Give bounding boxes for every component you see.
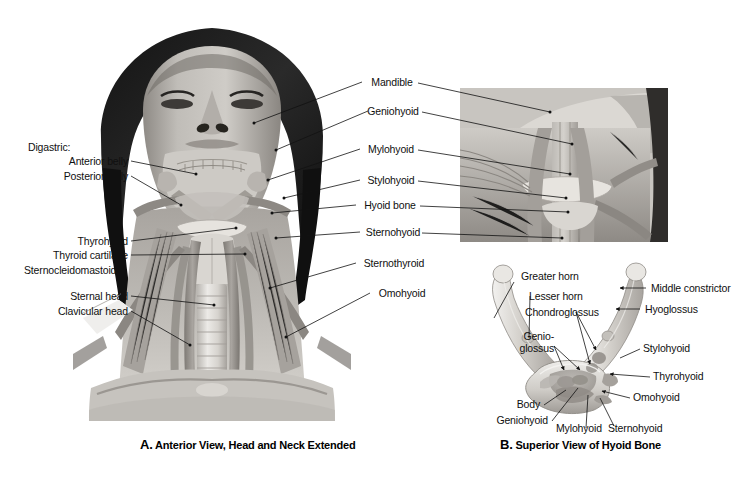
label-sternothyroid: Sternothyroid [358, 257, 430, 269]
label-mylohyoid: Mylohyoid [361, 143, 421, 155]
label-sternal-head: Sternal head [0, 290, 128, 302]
label-mandible: Mandible [363, 76, 421, 88]
label-b-omohyoid: Omohyoid [633, 391, 680, 403]
label-hyoid-bone: Hyoid bone [358, 199, 422, 211]
label-b-geniohyoid: Geniohyoid [480, 414, 548, 426]
label-b-chondroglossus: Chondroglossus [525, 306, 599, 318]
label-thyroid-cartilage: Thyroid cartilage [0, 249, 128, 261]
panel-b-caption-letter: B. [500, 437, 513, 452]
label-anterior-belly: Anterior belly [0, 155, 128, 167]
label-b-thyrohyoid: Thyrohyoid [653, 370, 703, 382]
label-omohyoid: Omohyoid [372, 287, 432, 299]
label-clavicular-head: Clavicular head [0, 305, 128, 317]
label-b-sternohyoid: Sternohyoid [608, 422, 662, 434]
label-b-lesser-horn: Lesser horn [529, 290, 583, 302]
label-b-stylohyoid: Stylohyoid [643, 342, 690, 354]
panel-a-caption-letter: A. [140, 437, 153, 452]
panel-a-caption: A. Anterior View, Head and Neck Extended [140, 437, 356, 452]
label-stylohyoid: Stylohyoid [361, 174, 421, 186]
label-posterior-belly: Posterior belly [0, 170, 128, 182]
label-b-genioglossus-line2: glossus [482, 342, 554, 354]
panel-a-caption-text: Anterior View, Head and Neck Extended [155, 439, 355, 451]
label-sternocleidomastoid-heading: Sternocleidomastoid: [24, 264, 119, 276]
label-sternohyoid: Sternohyoid [360, 226, 426, 238]
label-b-middle-constrictor: Middle constrictor [651, 282, 731, 294]
panel-b-caption: B. Superior View of Hyoid Bone [500, 437, 661, 452]
label-b-body: Body [492, 398, 540, 410]
label-digastric-heading: Digastric: [28, 141, 70, 153]
label-b-genioglossus-line1: Genio- [482, 330, 554, 342]
label-geniohyoid: Geniohyoid [361, 105, 425, 117]
label-b-greater-horn: Greater horn [521, 270, 579, 282]
panel-b-caption-text: Superior View of Hyoid Bone [515, 439, 660, 451]
label-thyrohyoid: Thyrohyoid [0, 235, 128, 247]
anatomy-plate: Digastric: Anterior belly Posterior bell… [0, 0, 754, 480]
label-b-hyoglossus: Hyoglossus [645, 303, 698, 315]
label-b-mylohyoid: Mylohyoid [556, 422, 602, 434]
